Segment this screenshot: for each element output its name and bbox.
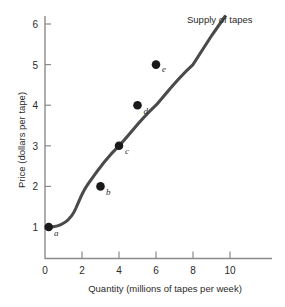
data-point-c [115,142,124,151]
supply-curve-line [49,17,225,228]
data-point-label-a: a [54,228,59,238]
x-tick-label-8: 8 [190,265,196,276]
data-point-label-e: e [162,64,166,74]
supply-curve-chart: 6 5 4 3 2 1 0 2 4 6 8 10 a b c d e Suppl… [0,0,285,307]
data-point-e [152,60,161,69]
y-tick-label-5: 5 [32,60,38,71]
x-tick-label-10: 10 [224,265,236,276]
y-tick-label-6: 6 [32,19,38,30]
chart-figure: 6 5 4 3 2 1 0 2 4 6 8 10 a b c d e Suppl… [0,0,285,307]
data-point-a [44,223,53,232]
data-point-d [133,101,142,110]
data-point-label-d: d [144,106,149,116]
y-axis-title: Price (dollars per tape) [16,92,27,188]
supply-curve-label: Supply of tapes [187,14,253,25]
y-tick-label-2: 2 [32,181,38,192]
y-tick-label-1: 1 [32,222,38,233]
y-tick-label-3: 3 [32,141,38,152]
x-axis-title: Quantity (millions of tapes per week) [88,283,242,294]
data-point-b [96,182,105,191]
data-point-label-b: b [106,187,111,197]
x-tick-label-2: 2 [79,265,85,276]
x-tick-label-4: 4 [116,265,122,276]
data-point-label-c: c [125,146,129,156]
x-tick-label-0: 0 [42,265,48,276]
x-tick-label-6: 6 [153,265,159,276]
y-tick-label-4: 4 [32,100,38,111]
